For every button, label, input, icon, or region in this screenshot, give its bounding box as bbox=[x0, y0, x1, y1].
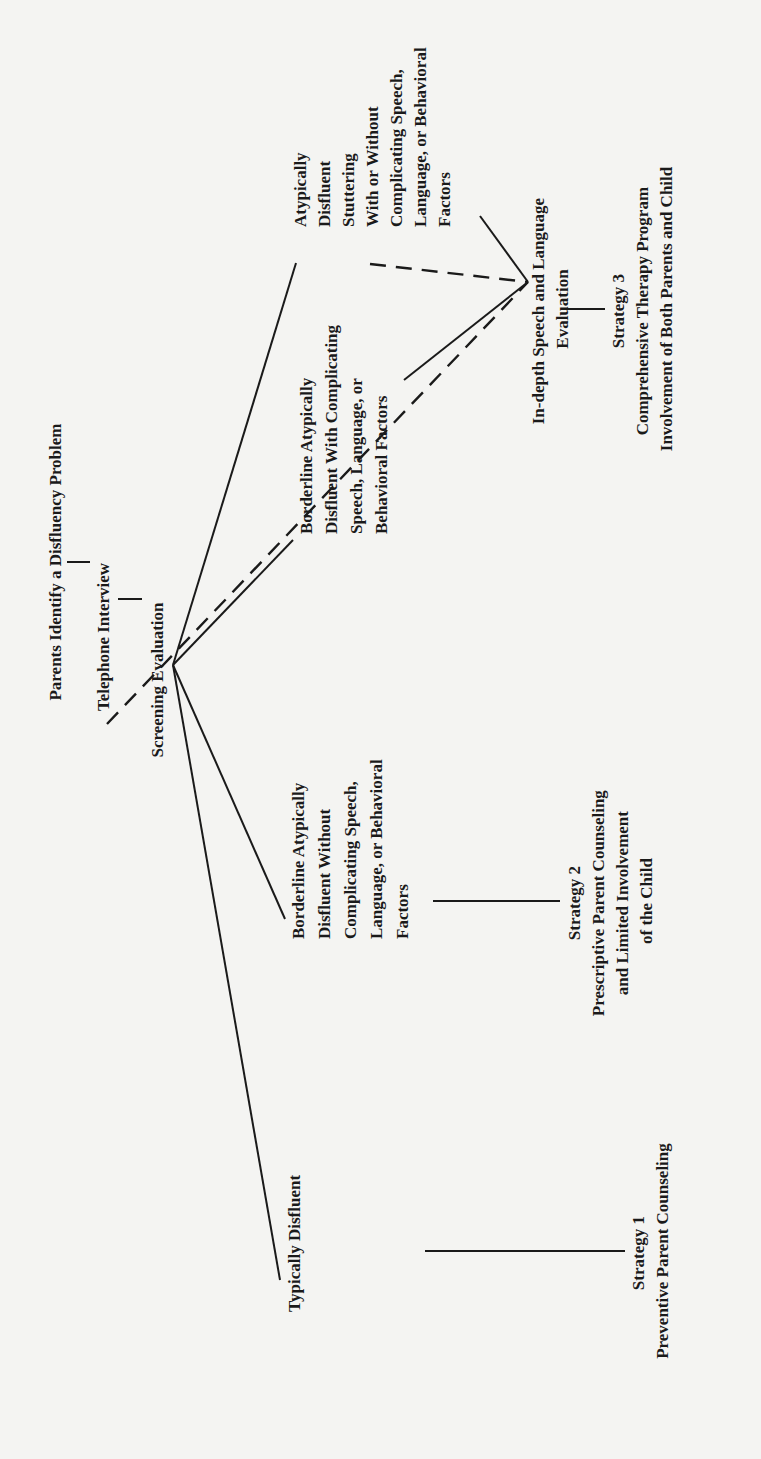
svg-text:Strategy 1 Preventive: Strategy 1 Preventive Parent Counseling bbox=[629, 1143, 672, 1359]
edge-atypically-indepth bbox=[480, 216, 528, 282]
node-borderline-without: Borderline Atypically Disfluent Without … bbox=[289, 755, 412, 939]
node-label-line: Factors bbox=[435, 172, 454, 227]
node-parents-identify: Parents Identify a Disfluency Problem bbox=[46, 423, 65, 700]
svg-text:In-depth Speech and Language: In-depth Speech and Language Evaluation bbox=[529, 194, 572, 425]
svg-text:Borderline Atypically: Borderline Atypically Disfluent With Com… bbox=[297, 321, 391, 534]
svg-text:Telephone Interview: Telephone Interview bbox=[94, 562, 113, 711]
edge-borderline-with-indepth bbox=[404, 282, 528, 380]
edge-screening-typically bbox=[173, 665, 280, 1280]
svg-text:Parents Identify a Disfluency: Parents Identify a Disfluency Problem bbox=[46, 423, 65, 700]
node-telephone-interview: Telephone Interview bbox=[94, 562, 113, 711]
node-label-line: Behavioral Factors bbox=[372, 395, 391, 534]
node-label-line: Disfluent bbox=[315, 161, 334, 227]
edge-telephone-indepth-dashed bbox=[107, 282, 528, 724]
strategy-description-line: Prescriptive Parent Counseling bbox=[589, 790, 608, 1017]
node-label-line: In-depth Speech and Language bbox=[529, 198, 548, 425]
strategy-description-line: Involvement of Both Parents and Child bbox=[657, 166, 676, 451]
node-label-line: Complicating Speech, bbox=[341, 781, 360, 939]
node-borderline-with: Borderline Atypically Disfluent With Com… bbox=[297, 321, 391, 534]
node-label-line: Language, or Behavioral bbox=[367, 759, 386, 939]
node-label: Typically Disfluent bbox=[285, 1175, 304, 1312]
edge-screening-borderline-without bbox=[173, 665, 285, 919]
node-label-line: Speech, Language, or bbox=[347, 378, 366, 534]
svg-text:Typically Disfluent: Typically Disfluent bbox=[285, 1175, 304, 1312]
node-typically-disfluent: Typically Disfluent bbox=[285, 1175, 304, 1312]
svg-text:Screening Evaluation: Screening Evaluation bbox=[148, 602, 167, 758]
strategy-title: Strategy 2 bbox=[565, 866, 584, 940]
node-strategy-3: Strategy 3 Comprehensive Therapy Program… bbox=[609, 166, 676, 451]
edge-screening-borderline-with bbox=[173, 540, 293, 665]
node-atypically-disfluent: Atypically Disfluent Stuttering With or … bbox=[291, 43, 454, 227]
strategy-description-line: Comprehensive Therapy Program bbox=[633, 187, 652, 435]
flowchart-svg: Parents Identify a Disfluency Problem Te… bbox=[0, 0, 761, 1459]
node-label-line: Complicating Speech, bbox=[387, 69, 406, 227]
node-label-line: Borderline Atypically bbox=[297, 377, 316, 534]
node-label-line: With or Without bbox=[363, 106, 382, 227]
node-screening-evaluation: Screening Evaluation bbox=[148, 602, 167, 758]
node-label-line: Disfluent Without bbox=[315, 808, 334, 939]
node-label-line: Disfluent With Complicating bbox=[322, 324, 341, 534]
svg-text:Atypically Disfluent: Atypically Disfluent Stuttering With or … bbox=[291, 43, 454, 227]
strategy-description-line: of the Child bbox=[637, 857, 656, 944]
strategy-title: Strategy 3 bbox=[609, 274, 628, 348]
strategy-title: Strategy 1 bbox=[629, 1216, 648, 1290]
node-label-line: Stuttering bbox=[339, 153, 358, 227]
node-label-line: Language, or Behavioral bbox=[411, 47, 430, 227]
node-label-line: Atypically bbox=[291, 152, 310, 227]
strategy-description-line: and Limited Involvement bbox=[613, 811, 632, 996]
edge-screening-atypically bbox=[173, 263, 296, 665]
node-label-line: Evaluation bbox=[553, 269, 572, 349]
edge-borderline-with-indepth-dashed bbox=[370, 264, 528, 282]
svg-text:Borderline Atypically: Borderline Atypically Disfluent Without … bbox=[289, 755, 412, 939]
node-strategy-2: Strategy 2 Prescriptive Parent Counselin… bbox=[565, 786, 656, 1016]
svg-text:Strategy 3 Comprehensi: Strategy 3 Comprehensive Therapy Program… bbox=[609, 166, 676, 451]
node-label-line: Borderline Atypically bbox=[289, 782, 308, 939]
flowchart-canvas: Parents Identify a Disfluency Problem Te… bbox=[0, 0, 761, 1459]
node-strategy-1: Strategy 1 Preventive Parent Counseling bbox=[629, 1143, 672, 1359]
node-label: Parents Identify a Disfluency Problem bbox=[46, 423, 65, 700]
svg-text:Strategy 2 Prescriptiv: Strategy 2 Prescriptive Parent Counselin… bbox=[565, 786, 656, 1016]
node-label: Screening Evaluation bbox=[148, 602, 167, 758]
node-label-line: Factors bbox=[393, 884, 412, 939]
node-indepth-evaluation: In-depth Speech and Language Evaluation bbox=[529, 194, 572, 425]
strategy-description: Preventive Parent Counseling bbox=[653, 1143, 672, 1359]
node-label: Telephone Interview bbox=[94, 562, 113, 711]
